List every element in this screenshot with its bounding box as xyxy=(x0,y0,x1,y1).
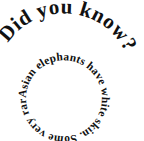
headline-textpath: Did you know? xyxy=(0,0,142,55)
circular-text-graphic: Did you know? Asian elephants have white… xyxy=(0,0,144,141)
trivia-poster: Did you know? Asian elephants have white… xyxy=(0,0,144,141)
headline-text: Did you know? xyxy=(0,0,142,55)
